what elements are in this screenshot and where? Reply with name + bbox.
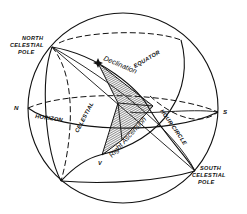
svg-text:CELESTIAL: CELESTIAL — [192, 172, 226, 178]
label-north-celestial-pole: NORTH CELESTIAL POLE — [10, 35, 44, 55]
svg-text:CELESTIAL: CELESTIAL — [10, 42, 44, 48]
svg-text:POLE: POLE — [198, 179, 214, 185]
svg-text:POLE: POLE — [18, 49, 34, 55]
label-celestial-meridian: CELESTIAL — [74, 101, 95, 134]
label-south-point: S — [223, 108, 228, 115]
svg-text:NORTH: NORTH — [22, 35, 44, 41]
label-horizon: HORIZON — [35, 113, 64, 123]
label-vernal-equinox: V — [98, 160, 103, 166]
celestial-sphere-figure: NORTH CELESTIAL POLE N S EQUATOR HORIZON… — [0, 0, 247, 214]
label-north-point: N — [14, 104, 19, 111]
svg-text:SOUTH: SOUTH — [200, 165, 222, 171]
